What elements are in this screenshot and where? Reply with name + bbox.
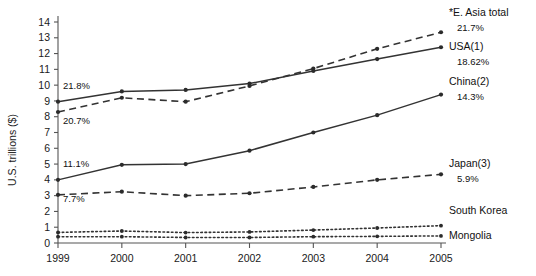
- data-point-marker: [184, 162, 188, 166]
- data-point-marker: [248, 236, 252, 240]
- axis-lines: [58, 16, 446, 243]
- data-point-marker: [120, 190, 124, 194]
- series-label-usa-1: USA(1): [449, 40, 483, 52]
- data-point-marker: [56, 193, 60, 197]
- y-tick-label: 7: [44, 126, 50, 138]
- data-point-marker: [56, 231, 60, 235]
- data-point-marker: [247, 191, 251, 195]
- chart-container: U.S. trillions ($) 01234567891011121314 …: [0, 0, 536, 276]
- inline-annotation: 7.7%: [63, 193, 85, 204]
- data-point-marker: [311, 130, 315, 134]
- y-tick-label: 10: [38, 79, 50, 91]
- data-point-marker: [56, 178, 60, 182]
- data-point-marker: [184, 100, 188, 104]
- data-point-marker: [311, 235, 315, 239]
- series-label-mongolia: Mongolia: [449, 229, 492, 241]
- data-point-marker: [120, 235, 124, 239]
- data-point-marker: [439, 30, 443, 34]
- y-axis-title-text: U.S. trillions ($): [6, 114, 18, 186]
- data-point-marker: [120, 229, 124, 233]
- series-label-china-2: China(2): [449, 75, 489, 87]
- data-point-marker: [120, 163, 124, 167]
- data-point-marker: [247, 149, 251, 153]
- series-value-usa-1: 18.62%: [457, 56, 490, 67]
- series-label-e-asia-total: *E. Asia total: [449, 6, 509, 18]
- series-label-layer: *E. Asia total21.7%USA(1)18.62%China(2)1…: [449, 6, 509, 241]
- line-chart: U.S. trillions ($) 01234567891011121314 …: [0, 0, 536, 276]
- y-tick-label: 12: [38, 47, 50, 59]
- x-tick-label: 2005: [429, 252, 453, 264]
- series-label-south-korea: South Korea: [449, 204, 508, 216]
- series-label-japan-3: Japan(3): [449, 157, 490, 169]
- x-axis-ticks: 1999200020012002200320042005: [46, 243, 453, 264]
- series-line-china-2: [58, 95, 441, 180]
- data-point-marker: [248, 230, 252, 234]
- y-tick-label: 13: [38, 31, 50, 43]
- data-point-marker: [247, 81, 251, 85]
- data-point-marker: [120, 89, 124, 93]
- y-tick-label: 1: [44, 221, 50, 233]
- data-point-marker: [56, 110, 60, 114]
- series-line-e-asia-total: [58, 32, 441, 112]
- data-point-marker: [120, 96, 124, 100]
- inline-annotation: 11.1%: [63, 158, 90, 169]
- x-tick-label: 2002: [238, 252, 262, 264]
- y-axis-ticks: 01234567891011121314: [38, 16, 58, 249]
- series-layer: [56, 30, 443, 239]
- x-tick-label: 2003: [302, 252, 326, 264]
- inline-annotation: 21.8%: [63, 80, 90, 91]
- y-tick-label: 2: [44, 205, 50, 217]
- data-point-marker: [439, 93, 443, 97]
- series-value-china-2: 14.3%: [457, 91, 484, 102]
- data-point-marker: [311, 69, 315, 73]
- data-point-marker: [375, 47, 379, 51]
- series-value-japan-3: 5.9%: [457, 173, 479, 184]
- y-tick-label: 0: [44, 237, 50, 249]
- data-point-marker: [375, 113, 379, 117]
- x-tick-label: 2000: [110, 252, 134, 264]
- y-tick-label: 11: [39, 63, 50, 75]
- x-tick-label: 2001: [174, 252, 198, 264]
- data-point-marker: [184, 194, 188, 198]
- y-axis-title: U.S. trillions ($): [6, 114, 18, 186]
- data-point-marker: [184, 88, 188, 92]
- series-line-usa-1: [58, 47, 441, 101]
- data-point-marker: [311, 228, 315, 232]
- data-point-marker: [56, 235, 60, 239]
- inline-annotation: 20.7%: [63, 115, 90, 126]
- y-tick-label: 6: [44, 142, 50, 154]
- data-point-marker: [184, 231, 188, 235]
- x-tick-label: 2004: [365, 252, 389, 264]
- data-point-marker: [311, 185, 315, 189]
- data-point-marker: [184, 236, 188, 240]
- y-tick-label: 3: [44, 189, 50, 201]
- data-point-marker: [439, 172, 443, 176]
- y-tick-label: 4: [44, 173, 50, 185]
- y-tick-label: 9: [44, 95, 50, 107]
- data-point-marker: [56, 100, 60, 104]
- series-value-e-asia-total: 21.7%: [457, 22, 484, 33]
- data-point-marker: [375, 234, 379, 238]
- data-point-marker: [375, 57, 379, 61]
- y-tick-label: 8: [44, 110, 50, 122]
- y-tick-label: 5: [44, 158, 50, 170]
- data-point-marker: [439, 45, 443, 49]
- y-tick-label: 14: [38, 16, 50, 28]
- data-point-marker: [375, 226, 379, 230]
- data-point-marker: [439, 234, 443, 238]
- x-tick-label: 1999: [46, 252, 70, 264]
- data-point-marker: [439, 224, 443, 228]
- data-point-marker: [375, 178, 379, 182]
